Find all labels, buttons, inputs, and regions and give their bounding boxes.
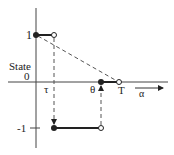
filled-dot-state-zero <box>98 79 104 85</box>
open-dot-state-minus-one <box>99 126 104 131</box>
x-marker-theta: θ <box>90 83 95 95</box>
y-tick-label-one: 1 <box>26 28 32 42</box>
open-dot-state-one <box>52 33 57 38</box>
y-tick-label-zero: 0 <box>24 70 30 82</box>
x-marker-T: T <box>118 84 125 96</box>
x-marker-tau: τ <box>44 83 49 95</box>
filled-dot-state-minus-one <box>51 125 57 131</box>
x-axis-label-alpha: α <box>139 88 145 99</box>
dashed-diagonal <box>38 36 117 81</box>
state-diagram: 1 State 0 -1 τ θ T α <box>0 0 174 155</box>
filled-dot-state-one <box>33 32 39 38</box>
y-tick-label-minus-one: -1 <box>17 122 26 134</box>
